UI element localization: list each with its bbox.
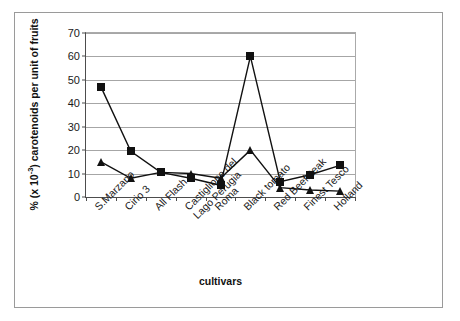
data-point-square	[217, 181, 225, 189]
y-axis-tick-label: 0	[74, 192, 80, 203]
data-point-square	[127, 147, 135, 155]
data-point-square	[97, 83, 105, 91]
gridline	[86, 103, 355, 104]
plot-area: 010203040506070 S.MarzanoCirio 3All Flas…	[85, 32, 356, 198]
x-axis-tick-mark	[146, 197, 147, 201]
x-axis-tick-mark	[235, 197, 236, 201]
data-point-triangle	[217, 174, 225, 182]
y-axis-title-exponent: -3	[26, 167, 35, 174]
data-point-triangle	[306, 186, 314, 194]
y-axis-title-suffix: ) carotenoids per unit of fruits	[28, 18, 40, 167]
y-axis-tick-label: 10	[68, 168, 80, 179]
y-axis-title: % (x 10-3) carotenoids per unit of fruit…	[29, 18, 40, 210]
data-point-triangle	[246, 146, 254, 154]
y-axis-tick-mark	[82, 103, 86, 104]
y-axis-tick-mark	[82, 173, 86, 174]
data-point-triangle	[127, 174, 135, 182]
y-axis-tick-label: 30	[68, 121, 80, 132]
y-axis-tick-mark	[82, 56, 86, 57]
x-axis-tick-label: Castiglione del Lago Perugia	[182, 155, 248, 221]
y-axis-title-prefix: % (x 10	[28, 174, 40, 210]
x-axis-tick-mark	[325, 197, 326, 201]
data-point-triangle	[336, 187, 344, 195]
gridline	[86, 56, 355, 57]
x-axis-tick-label: All Flash	[152, 176, 189, 213]
gridline	[86, 33, 355, 34]
x-axis-tick-mark	[355, 197, 356, 201]
x-axis-tick-mark	[295, 197, 296, 201]
y-axis-tick-label: 40	[68, 98, 80, 109]
data-point-square	[306, 171, 314, 179]
data-point-triangle	[187, 170, 195, 178]
data-point-square	[336, 161, 344, 169]
x-axis-title: cultivars	[85, 275, 356, 287]
y-axis-tick-mark	[82, 126, 86, 127]
y-axis-tick-label: 60	[68, 51, 80, 62]
y-axis-tick-label: 50	[68, 74, 80, 85]
gridline	[86, 127, 355, 128]
x-axis-tick-mark	[116, 197, 117, 201]
y-axis-tick-mark	[82, 150, 86, 151]
gridline	[86, 80, 355, 81]
data-point-triangle	[97, 158, 105, 166]
y-axis-tick-label: 70	[68, 28, 80, 39]
data-point-square	[246, 52, 254, 60]
y-axis-tick-mark	[82, 79, 86, 80]
x-axis-tick-mark	[86, 197, 87, 201]
x-axis-tick-mark	[176, 197, 177, 201]
figure-frame: % (x 10-3) carotenoids per unit of fruit…	[14, 12, 443, 308]
data-point-triangle	[157, 168, 165, 176]
data-point-triangle	[276, 184, 284, 192]
x-axis-tick-mark	[265, 197, 266, 201]
y-axis-tick-label: 20	[68, 145, 80, 156]
y-axis-tick-mark	[82, 33, 86, 34]
x-axis-tick-label: Cirio 3	[122, 183, 152, 213]
